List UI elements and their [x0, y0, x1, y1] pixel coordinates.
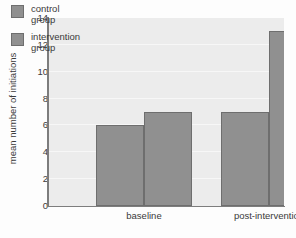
x-tick-label: post-intervention	[199, 210, 296, 221]
y-tick-label: 2	[26, 174, 48, 184]
bar-post-intervention-control	[221, 112, 269, 206]
y-tick-label: 4	[26, 147, 48, 157]
bar-group-container	[49, 18, 284, 206]
x-tick-label: baseline	[74, 210, 214, 221]
y-tick-label: 0	[26, 201, 48, 211]
y-tick-label: 10	[26, 67, 48, 77]
bar-chart-figure: mean number of initiations 02468101214 c…	[0, 0, 296, 238]
legend-label-control: control group	[31, 4, 60, 25]
legend-item-intervention: intervention group	[11, 32, 80, 53]
legend-label-intervention: intervention group	[31, 32, 80, 53]
legend-item-control: control group	[11, 4, 80, 25]
legend-label-control-line2: group	[31, 14, 55, 25]
legend-label-control-line1: control	[31, 3, 60, 14]
bar-baseline-intervention	[144, 112, 192, 206]
legend-label-intervention-line2: group	[31, 42, 55, 53]
legend-swatch-intervention	[11, 33, 24, 46]
chart-legend: control group intervention group	[11, 4, 80, 60]
bar-baseline-control	[96, 125, 144, 206]
y-tick-label: 6	[26, 120, 48, 130]
bar-post-intervention-intervention	[269, 31, 284, 206]
legend-swatch-control	[11, 5, 24, 18]
y-tick-label: 8	[26, 94, 48, 104]
plot-area	[49, 18, 284, 206]
legend-label-intervention-line1: intervention	[31, 31, 80, 42]
